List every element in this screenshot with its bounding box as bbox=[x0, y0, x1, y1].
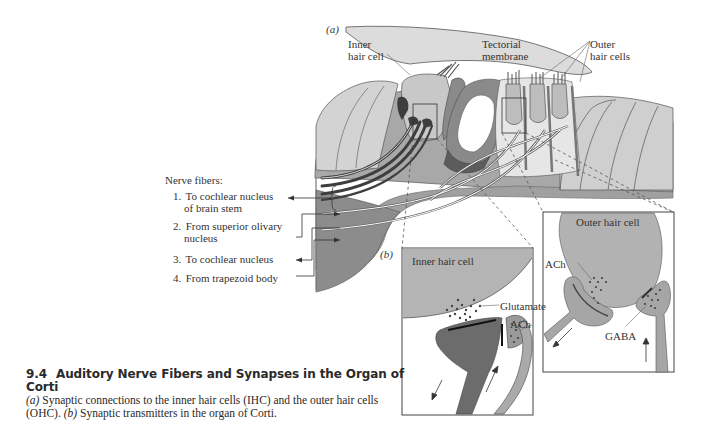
glutamate-label: Glutamate bbox=[500, 300, 546, 312]
figure-caption-body: (a) Synaptic connections to the inner ha… bbox=[26, 394, 406, 420]
nerve-fiber-item-3-line1: To cochlear nucleus bbox=[186, 253, 274, 265]
nerve-fiber-item-2-line1: From superior olivary bbox=[186, 220, 283, 232]
nerve-fiber-item-2: 2. From superior olivary nucleus bbox=[173, 220, 282, 244]
nerve-fiber-item-3-number: 3. bbox=[173, 253, 183, 265]
gaba-label: GABA bbox=[605, 330, 636, 342]
nerve-fiber-item-4: 4. From trapezoid body bbox=[173, 272, 278, 284]
inner-hair-cell-label-line1: Inner bbox=[348, 38, 384, 50]
outer-hair-cells-label-line2: hair cells bbox=[590, 50, 630, 62]
tectorial-membrane-label-line2: membrane bbox=[482, 50, 528, 62]
panel-a-tag: (a) bbox=[326, 23, 339, 35]
inner-box-title: Inner hair cell bbox=[412, 255, 474, 267]
caption-part-a-tag: (a) bbox=[26, 394, 39, 406]
nerve-fiber-item-2-number: 2. bbox=[173, 220, 183, 232]
nerve-fiber-item-1-number: 1. bbox=[173, 190, 183, 202]
figure-number: 9.4 bbox=[26, 367, 47, 381]
nerve-fiber-item-1: 1. To cochlear nucleus of brain stem bbox=[173, 190, 273, 214]
figure-caption: 9.4Auditory Nerve Fibers and Synapses in… bbox=[26, 368, 406, 420]
inner-ach-label: ACh bbox=[510, 318, 531, 330]
tectorial-membrane-label-line1: Tectorial bbox=[482, 38, 528, 50]
tectorial-membrane-label: Tectorial membrane bbox=[482, 38, 528, 62]
outer-ach-label: ACh bbox=[545, 258, 566, 270]
nerve-fiber-item-1-line1: To cochlear nucleus bbox=[186, 190, 274, 202]
inner-hair-cell-label: Inner hair cell bbox=[348, 38, 384, 62]
caption-part-b-tag: (b) bbox=[64, 407, 77, 419]
caption-part-b-text: Synaptic transmitters in the organ of Co… bbox=[77, 407, 277, 419]
outer-box-title: Outer hair cell bbox=[576, 216, 640, 228]
nerve-fiber-item-4-line1: From trapezoid body bbox=[186, 272, 278, 284]
nerve-fiber-item-2-line2: nucleus bbox=[173, 232, 282, 244]
outer-hair-cells-label-line1: Outer bbox=[590, 38, 630, 50]
nerve-fiber-item-1-line2: of brain stem bbox=[173, 202, 273, 214]
panel-b-tag: (b) bbox=[380, 248, 393, 260]
inner-hair-cell-label-line2: hair cell bbox=[348, 50, 384, 62]
nerve-fibers-title: Nerve fibers: bbox=[165, 174, 223, 186]
figure-heading: 9.4Auditory Nerve Fibers and Synapses in… bbox=[26, 368, 406, 394]
outer-hair-cells-label: Outer hair cells bbox=[590, 38, 630, 62]
nerve-fiber-item-4-number: 4. bbox=[173, 272, 183, 284]
nerve-fiber-item-3: 3. To cochlear nucleus bbox=[173, 253, 273, 265]
figure-title: Auditory Nerve Fibers and Synapses in th… bbox=[26, 367, 404, 394]
